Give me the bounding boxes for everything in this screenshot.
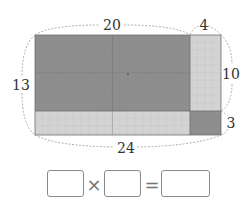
label-right-upper-height: 10	[222, 67, 240, 81]
region-bottom-strip	[35, 111, 190, 135]
label-top-left-width: 20	[103, 18, 121, 32]
label-top-right-width: 4	[200, 18, 209, 32]
label-left-height: 13	[12, 78, 30, 92]
answer-box-1[interactable]	[47, 170, 84, 197]
times-sign: ×	[86, 174, 101, 195]
label-right-lower-height: 3	[227, 116, 236, 130]
equals-sign: =	[144, 174, 159, 195]
answer-box-2[interactable]	[104, 170, 141, 197]
region-right-strip	[190, 35, 221, 111]
region-corner	[190, 111, 221, 135]
answer-box-3[interactable]	[161, 170, 210, 197]
label-bottom-width: 24	[117, 141, 135, 155]
